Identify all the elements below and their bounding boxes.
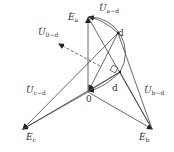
- phasor-Eb: [88, 92, 152, 129]
- right-angle-mark: [110, 65, 118, 73]
- label-Uc-d: ·Uc−d: [26, 86, 46, 96]
- label-origin: 0: [86, 95, 92, 104]
- label-d-upper: d: [118, 29, 124, 38]
- label-Ub-d: ·Ub−d: [144, 86, 164, 96]
- label-U0-d: ·U0−d: [38, 28, 58, 38]
- phasor-diagram: [0, 0, 174, 152]
- label-Ea: ·Ea: [68, 13, 78, 23]
- label-Ec: ·Ec: [26, 133, 36, 143]
- point-d-lower: [119, 71, 121, 73]
- phasor-U0-d: [59, 44, 100, 66]
- label-d-lower: d: [112, 84, 118, 93]
- phasor-Uc-d: [23, 33, 118, 129]
- label-Ua-d: ·Ua−d: [99, 4, 119, 14]
- label-Eb: ·Eb: [139, 133, 149, 143]
